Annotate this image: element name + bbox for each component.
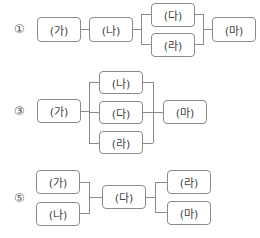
option-number: ⑤ [12,191,26,205]
box-da: (다) [99,101,143,124]
connector [195,14,203,15]
connector [80,213,89,214]
option-number: ③ [12,104,26,118]
bracket-left [141,14,142,45]
box-ga: (가) [37,17,81,42]
box-ma: (마) [212,17,256,42]
connector [143,82,153,83]
connector [133,29,141,30]
connector [81,29,89,30]
box-da: (다) [151,3,195,27]
box-ga: (가) [37,99,81,123]
box-ga: (가) [36,170,80,194]
connector [155,182,167,183]
box-ra: (라) [167,170,211,194]
box-ma: (마) [167,201,211,225]
box-da: (다) [102,185,146,209]
bracket-right [155,182,156,213]
connector [203,29,212,30]
connector [155,212,167,213]
box-ma: (마) [163,100,207,124]
connector [141,14,151,15]
connector [146,197,155,198]
connector [80,182,89,183]
connector [89,112,99,113]
connector [143,112,153,113]
box-ra: (라) [151,33,195,57]
connector [89,82,99,83]
connector [81,111,89,112]
connector [195,44,203,45]
box-ra: (라) [99,131,143,154]
bracket-left [89,182,90,214]
connector [141,44,151,45]
connector [143,143,153,144]
option-number: ① [12,22,26,36]
connector [89,197,102,198]
box-na: (나) [36,202,80,226]
box-na: (나) [89,17,133,42]
connector [153,112,163,113]
box-na: (나) [99,71,143,94]
connector [89,143,99,144]
